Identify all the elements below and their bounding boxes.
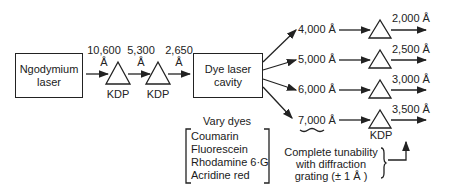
kdp-output-label: KDP	[367, 129, 395, 141]
arrow-tunability-to-kdp	[388, 142, 406, 160]
input-wavelength-7000: 7,000 Å	[298, 114, 336, 126]
input-wavelength-4000: 4,000 Å	[298, 23, 336, 35]
cavity-label-line2: cavity	[205, 76, 251, 89]
vary-dyes-title: Vary dyes	[203, 115, 251, 127]
kdp-output-2-icon	[369, 50, 391, 68]
wavelength-label-3: 2,650 Å	[161, 44, 197, 68]
laser-label-line1: Ngodymium	[20, 63, 79, 76]
squiggle-7000	[300, 129, 324, 132]
output-wavelength-2000: 2,000 Å	[392, 12, 430, 24]
tunability-brace	[381, 148, 386, 178]
arrow-cavity-to-6000	[263, 79, 296, 90]
output-wavelength-3500: 3,500 Å	[392, 103, 430, 115]
neodymium-laser-box: Ngodymium laser	[15, 53, 83, 98]
kdp-label-2: KDP	[144, 88, 172, 100]
kdp-output-4-icon	[369, 110, 391, 128]
laser-label-line2: laser	[20, 76, 79, 89]
dye-item: Rhodamine 6·G	[191, 156, 269, 169]
input-wavelength-6000: 6,000 Å	[298, 83, 336, 95]
cavity-label-line1: Dye laser	[205, 63, 251, 76]
dye-laser-cavity-box: Dye laser cavity	[193, 53, 263, 98]
wavelength-label-2: 5,300 Å	[123, 44, 159, 68]
tunability-note: Complete tunability with diffraction gra…	[282, 146, 380, 182]
dye-item: Fluorescein	[191, 143, 269, 156]
arrow-cavity-to-7000	[263, 87, 292, 118]
dye-item: Acridine red	[191, 169, 269, 182]
arrow-cavity-to-4000	[263, 30, 296, 62]
dye-list: Coumarin Fluorescein Rhodamine 6·G Acrid…	[191, 130, 269, 182]
kdp-output-3-icon	[369, 80, 391, 98]
arrow-cavity-to-5000	[263, 60, 296, 70]
input-wavelength-5000: 5,000 Å	[298, 53, 336, 65]
wavelength-label-1: 10,600 Å	[84, 44, 124, 68]
kdp-output-1-icon	[369, 20, 391, 38]
dye-item: Coumarin	[191, 130, 269, 143]
kdp-label-1: KDP	[104, 88, 132, 100]
output-wavelength-2500: 2,500 Å	[392, 43, 430, 55]
output-wavelength-3000: 3,000 Å	[392, 73, 430, 85]
